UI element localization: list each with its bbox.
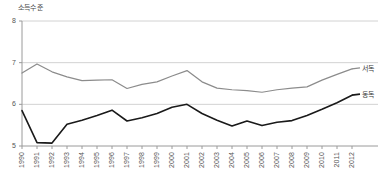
x-tick-label: 1993 (63, 152, 70, 168)
x-tick-label: 2000 (168, 152, 175, 168)
x-tick-label: 1998 (138, 152, 145, 168)
x-tick-label: 1990 (18, 152, 25, 168)
series-lines (22, 64, 360, 143)
y-tick-label: 5 (2, 142, 16, 149)
x-tick-label: 1994 (78, 152, 85, 168)
series-line-서독 (22, 64, 352, 92)
y-tick-label: 8 (2, 17, 16, 24)
y-tick-label: 6 (2, 100, 16, 107)
x-tick-label: 2007 (273, 152, 280, 168)
x-tick-label: 2012 (348, 152, 355, 168)
x-tick-label: 2011 (333, 152, 340, 167)
series-leader-동독 (352, 94, 360, 95)
y-tick-label: 7 (2, 59, 16, 66)
x-tick-label: 1996 (108, 152, 115, 168)
x-tick-label: 2006 (258, 152, 265, 168)
line-chart: 소득수준 5678 199019911992199319941995199619… (0, 0, 387, 186)
series-label-서독: 서독 (362, 63, 374, 73)
series-leader-서독 (352, 68, 360, 69)
x-tick-label: 2005 (243, 152, 250, 168)
axis-lines (19, 21, 22, 146)
x-tick-label: 2003 (213, 152, 220, 168)
x-tick-label: 1997 (123, 152, 130, 168)
x-tick-label: 2004 (228, 152, 235, 168)
x-tick-label: 1999 (153, 152, 160, 168)
x-tick-label: 1995 (93, 152, 100, 168)
x-tick-label: 2009 (303, 152, 310, 168)
x-tick-label: 2002 (198, 152, 205, 168)
series-line-동독 (22, 95, 352, 143)
x-tick-label: 2008 (288, 152, 295, 168)
series-label-동독: 동독 (362, 89, 374, 99)
x-tick-label: 2010 (318, 152, 325, 168)
plot-area (0, 0, 387, 186)
gridlines (22, 21, 378, 146)
x-tick-label: 1992 (48, 152, 55, 168)
x-tick-label: 1991 (33, 152, 40, 168)
x-tick-label: 2001 (183, 152, 190, 168)
